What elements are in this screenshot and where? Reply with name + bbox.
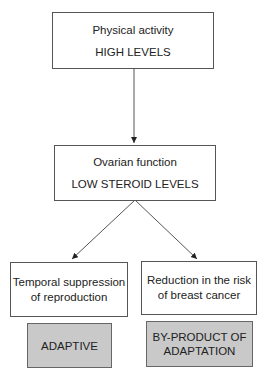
ovarian-function-box: Ovarian function LOW STEROID LEVELS xyxy=(54,145,216,201)
breast-cancer-risk-box: Reduction in the risk of breast cancer xyxy=(141,261,257,315)
physical-activity-label: Physical activity xyxy=(92,23,173,37)
physical-activity-box: Physical activity HIGH LEVELS xyxy=(52,12,214,69)
temporal-suppression-line1: Temporal suppression xyxy=(13,275,126,290)
by-product-outcome-box: BY-PRODUCT OF ADAPTATION xyxy=(146,321,253,367)
breast-cancer-risk-line2: of breast cancer xyxy=(158,288,240,303)
low-steroid-levels-label: LOW STEROID LEVELS xyxy=(71,177,198,191)
ovarian-function-label: Ovarian function xyxy=(93,155,177,169)
by-product-line2: ADAPTATION xyxy=(164,344,236,358)
temporal-suppression-line2: of reproduction xyxy=(31,290,108,305)
adaptive-label: ADAPTIVE xyxy=(41,339,98,353)
breast-cancer-risk-line1: Reduction in the risk xyxy=(147,273,251,288)
temporal-suppression-box: Temporal suppression of reproduction xyxy=(10,262,128,317)
high-levels-label: HIGH LEVELS xyxy=(95,45,170,59)
adaptive-outcome-box: ADAPTIVE xyxy=(27,323,112,368)
by-product-line1: BY-PRODUCT OF xyxy=(153,330,247,344)
